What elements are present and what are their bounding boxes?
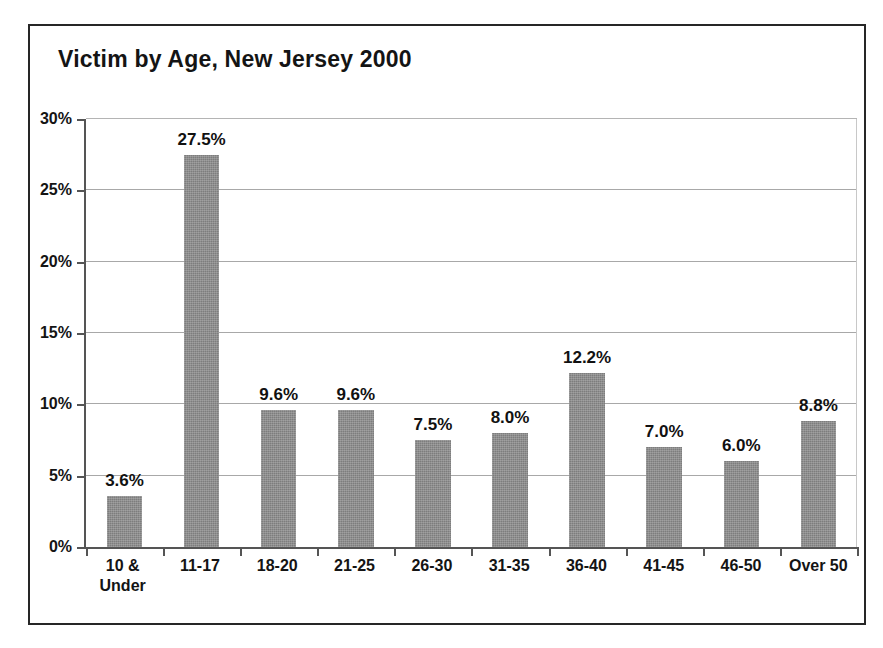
x-axis-tick-mark xyxy=(703,547,705,556)
bar-slot: 8.8% xyxy=(780,119,857,547)
y-axis-tick-mark xyxy=(77,190,86,192)
y-axis-tick-label: 10% xyxy=(40,395,72,413)
bar-value-label: 12.2% xyxy=(563,348,611,368)
plot-area: 30%25%20%15%10%5%0% 3.6%27.5%9.6%9.6%7.5… xyxy=(84,119,857,549)
bar[interactable]: 8.0% xyxy=(492,433,527,547)
x-axis-category-label: 10 & Under xyxy=(84,556,161,596)
y-axis-tick-mark xyxy=(77,119,86,121)
y-axis-tick-mark xyxy=(77,476,86,478)
y-axis-tick-mark xyxy=(77,404,86,406)
bar-value-label: 9.6% xyxy=(336,385,375,405)
x-axis-tick-mark xyxy=(317,547,319,556)
x-axis-category-label: Over 50 xyxy=(780,556,857,596)
bar-slot: 9.6% xyxy=(240,119,317,547)
x-axis-category-label: 36-40 xyxy=(548,556,625,596)
bar-value-label: 27.5% xyxy=(178,130,226,150)
chart-frame: Victim by Age, New Jersey 2000 30%25%20%… xyxy=(28,24,866,625)
x-axis-tick-mark xyxy=(394,547,396,556)
x-axis-tick-mark xyxy=(163,547,165,556)
bar-slot: 27.5% xyxy=(163,119,240,547)
bars-group: 3.6%27.5%9.6%9.6%7.5%8.0%12.2%7.0%6.0%8.… xyxy=(86,119,857,547)
x-axis-category-label: 11-17 xyxy=(161,556,238,596)
x-axis-tick-mark xyxy=(471,547,473,556)
x-axis-category-label: 31-35 xyxy=(470,556,547,596)
chart-title: Victim by Age, New Jersey 2000 xyxy=(58,46,412,73)
y-axis-tick-label: 5% xyxy=(49,467,72,485)
x-axis-category-label: 21-25 xyxy=(316,556,393,596)
x-axis-tick-mark xyxy=(549,547,551,556)
y-axis-tick-label: 20% xyxy=(40,253,72,271)
bar-slot: 6.0% xyxy=(703,119,780,547)
bar-value-label: 7.0% xyxy=(645,422,684,442)
bar-value-label: 7.5% xyxy=(414,415,453,435)
x-axis-tick-mark xyxy=(857,547,859,556)
bar-slot: 9.6% xyxy=(317,119,394,547)
y-axis-tick-mark xyxy=(77,333,86,335)
bar-slot: 7.0% xyxy=(626,119,703,547)
x-axis-category-label: 46-50 xyxy=(702,556,779,596)
bar[interactable]: 12.2% xyxy=(569,373,604,547)
plot-area-wrapper: 30%25%20%15%10%5%0% 3.6%27.5%9.6%9.6%7.5… xyxy=(84,119,857,549)
y-axis-tick-mark xyxy=(77,547,86,549)
y-axis-tick-mark xyxy=(77,262,86,264)
bar-slot: 8.0% xyxy=(471,119,548,547)
x-axis-category-label: 18-20 xyxy=(239,556,316,596)
bar[interactable]: 8.8% xyxy=(801,421,836,547)
x-axis-tick-mark xyxy=(86,547,88,556)
x-axis-category-label: 41-45 xyxy=(625,556,702,596)
bar-value-label: 9.6% xyxy=(259,385,298,405)
bar-slot: 7.5% xyxy=(394,119,471,547)
x-axis-tick-mark xyxy=(626,547,628,556)
y-axis-tick-label: 25% xyxy=(40,181,72,199)
bar[interactable]: 3.6% xyxy=(107,496,142,547)
y-axis-tick-label: 30% xyxy=(40,110,72,128)
x-axis-category-label: 26-30 xyxy=(393,556,470,596)
x-axis-category-labels: 10 & Under11-1718-2021-2526-3031-3536-40… xyxy=(84,556,857,596)
y-axis-tick-label: 0% xyxy=(49,538,72,556)
bar-value-label: 3.6% xyxy=(105,471,144,491)
bar-slot: 12.2% xyxy=(549,119,626,547)
bar-value-label: 8.8% xyxy=(799,396,838,416)
y-axis-tick-label: 15% xyxy=(40,324,72,342)
bar-value-label: 8.0% xyxy=(491,408,530,428)
bar[interactable]: 9.6% xyxy=(261,410,296,547)
bar-slot: 3.6% xyxy=(86,119,163,547)
bar[interactable]: 27.5% xyxy=(184,155,219,547)
bar[interactable]: 7.5% xyxy=(415,440,450,547)
bar[interactable]: 6.0% xyxy=(724,461,759,547)
bar-value-label: 6.0% xyxy=(722,436,761,456)
bar[interactable]: 7.0% xyxy=(646,447,681,547)
bar[interactable]: 9.6% xyxy=(338,410,373,547)
x-axis-tick-mark xyxy=(240,547,242,556)
x-axis-tick-mark xyxy=(780,547,782,556)
